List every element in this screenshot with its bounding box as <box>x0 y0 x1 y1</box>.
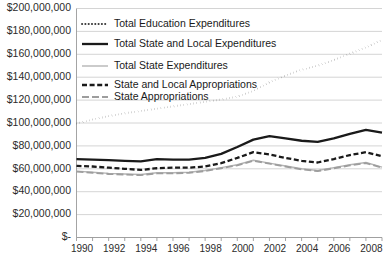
x-axis-tick-label: 2004 <box>296 243 319 254</box>
line-chart: $-$20,000,000$40,000,000$60,000,000$80,0… <box>0 0 391 272</box>
y-axis-tick-label: $100,000,000 <box>7 116 71 128</box>
legend-label-2: Total State and Local Expenditures <box>114 37 276 49</box>
legend-label-1: Total Education Expenditures <box>114 17 250 29</box>
x-axis-tick-label: 2008 <box>360 243 383 254</box>
x-axis-tick-label: 1996 <box>167 243 190 254</box>
y-axis-tick-label: $200,000,000 <box>7 1 71 13</box>
y-axis-tick-label: $160,000,000 <box>7 47 71 59</box>
y-axis-tick-label: $- <box>62 230 72 242</box>
legend-label-5: State Appropriations <box>114 90 209 102</box>
x-axis-tick-label: 1990 <box>71 243 94 254</box>
y-axis-tick-label: $120,000,000 <box>7 93 71 105</box>
x-axis-tick-label: 1992 <box>103 243 126 254</box>
x-axis-tick-label: 1994 <box>135 243 158 254</box>
legend-label-3: Total State Expenditures <box>114 59 228 71</box>
x-axis-tick-label: 2002 <box>264 243 287 254</box>
y-axis-tick-label: $20,000,000 <box>13 207 72 219</box>
legend-label-4: State and Local Appropriations <box>114 78 257 90</box>
x-axis-tick-label: 2000 <box>232 243 255 254</box>
y-axis-tick-label: $60,000,000 <box>13 162 72 174</box>
chart-container: $-$20,000,000$40,000,000$60,000,000$80,0… <box>0 0 391 272</box>
y-axis-tick-label: $40,000,000 <box>13 184 72 196</box>
y-axis-tick-label: $140,000,000 <box>7 70 71 82</box>
x-axis-tick-label: 2006 <box>328 243 351 254</box>
y-axis-tick-label: $80,000,000 <box>13 139 72 151</box>
x-axis-tick-label: 1998 <box>200 243 223 254</box>
y-axis-tick-label: $180,000,000 <box>7 24 71 36</box>
